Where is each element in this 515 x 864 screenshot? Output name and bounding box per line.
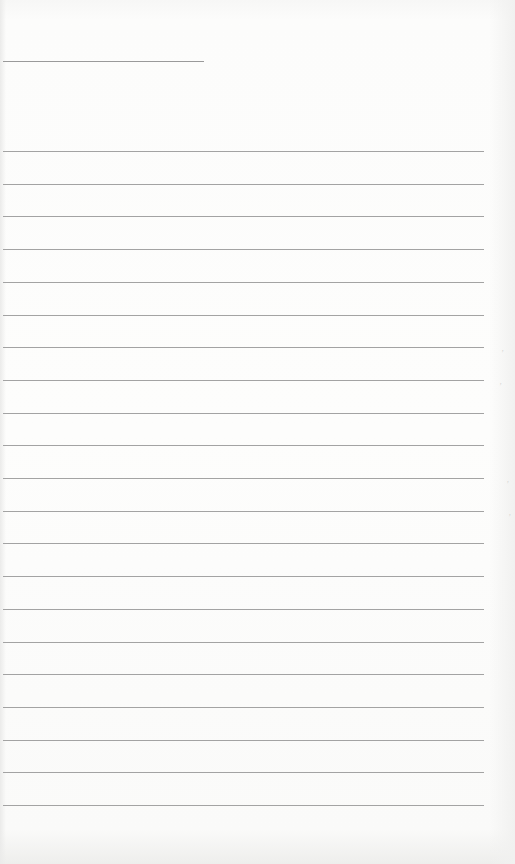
ruled-line [3,347,484,348]
ruled-line [3,543,484,544]
ruled-line [3,674,484,675]
ruled-line [3,249,484,250]
ruled-line [3,772,484,773]
ruled-line [3,576,484,577]
ruled-line [3,380,484,381]
ruled-line [3,151,484,152]
notepaper-page: ‚ ‚ , , [0,0,515,864]
show-through-mark: ‚ [500,376,502,386]
ruled-line [3,707,484,708]
ruled-line [3,315,484,316]
ruled-line [3,478,484,479]
left-edge-shadow [0,0,6,864]
show-through-mark: ‚ [502,343,504,353]
show-through-mark: , [507,474,510,484]
ruled-line [3,282,484,283]
title-line [3,61,204,62]
ruled-line [3,413,484,414]
ruled-line [3,216,484,217]
ruled-line [3,740,484,741]
ruled-line [3,445,484,446]
ruled-line [3,805,484,806]
right-edge-shadow [489,0,515,864]
ruled-line [3,609,484,610]
ruled-line [3,511,484,512]
show-through-mark: , [509,507,512,517]
ruled-line [3,642,484,643]
ruled-line [3,184,484,185]
